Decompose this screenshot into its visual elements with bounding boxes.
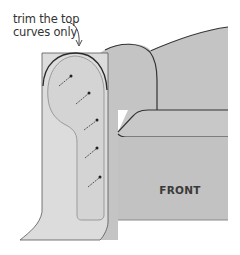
front-label: FRONT (155, 184, 205, 196)
sofa-front-base (118, 137, 228, 220)
sofa-back (148, 27, 228, 110)
callout-line-2: curves only (13, 26, 79, 39)
callout-text: trim the top curves only (13, 13, 79, 39)
